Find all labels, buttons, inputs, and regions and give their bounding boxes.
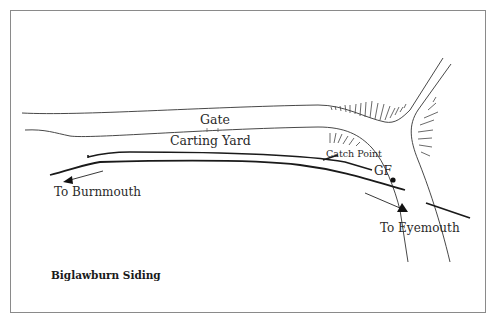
diagram-canvas: Gate Carting Yard Catch Point GF To Burn…	[0, 0, 492, 322]
arrow-to-burnmouth	[63, 171, 103, 184]
road-upper-edge	[22, 58, 443, 122]
main-line-east	[426, 203, 470, 218]
label-carting-yard: Carting Yard	[170, 135, 251, 148]
label-catch-point: Catch Point	[326, 149, 382, 159]
label-to-burnmouth: To Burnmouth	[54, 186, 141, 198]
gate-marks	[207, 128, 218, 132]
label-to-eyemouth: To Eyemouth	[380, 222, 460, 234]
label-gate: Gate	[200, 114, 230, 127]
arrow-to-eyemouth	[365, 193, 408, 212]
diagram-title: Biglawburn Siding	[51, 270, 161, 281]
ground-frame-marker	[390, 177, 395, 182]
label-ground-frame: GF	[374, 165, 392, 177]
